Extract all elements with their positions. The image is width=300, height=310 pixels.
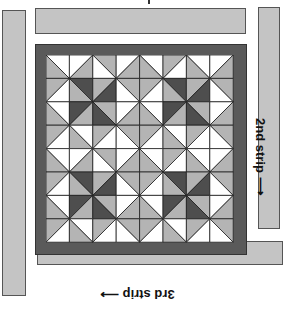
first-strip-left bbox=[2, 10, 26, 296]
second-strip-label: 2nd strip ⟶ bbox=[253, 118, 268, 196]
top-mark bbox=[148, 0, 150, 4]
third-strip-label: 3rd strip ⟶ bbox=[100, 287, 175, 302]
strip-top bbox=[35, 8, 246, 34]
quilt-center-grid bbox=[46, 55, 234, 243]
